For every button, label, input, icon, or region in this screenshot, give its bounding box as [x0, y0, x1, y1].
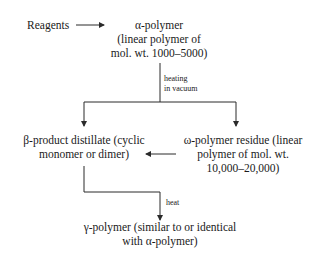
polymer-flow-diagram: Reagents α-polymer (linear polymer of mo…: [0, 0, 316, 256]
heating-line-1: heating: [164, 74, 198, 84]
edge-label-heating-in-vacuum: heating in vacuum: [164, 74, 198, 94]
omega-line-2: polymer of mol. wt.: [180, 147, 306, 161]
node-beta-product: β-product distillate (cyclic monomer or …: [14, 133, 154, 161]
heating-line-2: in vacuum: [164, 84, 198, 94]
beta-line-2: monomer or dimer): [14, 147, 154, 161]
beta-line-1: β-product distillate (cyclic: [14, 133, 154, 147]
heat-text: heat: [166, 198, 179, 208]
reagents-label: Reagents: [27, 18, 69, 32]
alpha-line-2: (linear polymer of: [99, 32, 219, 46]
gamma-line-1: γ-polymer (similar to or identical: [75, 220, 245, 234]
node-alpha-polymer: α-polymer (linear polymer of mol. wt. 10…: [99, 18, 219, 60]
node-reagents: Reagents: [27, 18, 69, 32]
omega-line-3: 10,000–20,000): [180, 161, 306, 175]
gamma-line-2: with α-polymer): [75, 234, 245, 248]
node-gamma-polymer: γ-polymer (similar to or identical with …: [75, 220, 245, 248]
omega-line-1: ω-polymer residue (linear: [180, 133, 306, 147]
alpha-line-1: α-polymer: [99, 18, 219, 32]
alpha-line-3: mol. wt. 1000–5000): [99, 46, 219, 60]
edge-label-heat: heat: [166, 198, 179, 208]
path-beta-to-gamma: [84, 166, 160, 220]
node-omega-polymer: ω-polymer residue (linear polymer of mol…: [180, 133, 306, 175]
